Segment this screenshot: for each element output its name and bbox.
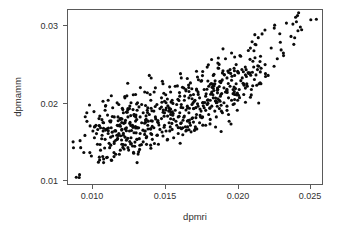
data-point (123, 121, 126, 124)
data-point (214, 126, 217, 129)
data-point (95, 132, 98, 135)
data-point (207, 63, 210, 66)
data-point (238, 96, 241, 99)
data-point (139, 132, 142, 135)
data-point (143, 122, 146, 125)
data-point (109, 136, 112, 139)
data-point (158, 128, 161, 131)
data-point (104, 109, 107, 112)
data-point (178, 91, 181, 94)
data-point (236, 99, 239, 102)
data-point (244, 101, 247, 104)
data-point (212, 73, 215, 76)
data-point (201, 70, 204, 73)
data-point (258, 60, 261, 63)
data-point (207, 113, 210, 116)
data-point (225, 88, 228, 91)
data-point (247, 72, 250, 75)
data-point (185, 129, 188, 132)
data-point (195, 113, 198, 116)
data-point (244, 73, 247, 76)
data-point (217, 67, 220, 70)
data-point (229, 122, 232, 125)
data-point (248, 58, 251, 61)
data-point (198, 96, 201, 99)
data-point (110, 159, 113, 162)
data-point (116, 115, 119, 118)
data-point (122, 111, 125, 114)
data-point (200, 79, 203, 82)
data-point (149, 147, 152, 150)
data-point (104, 105, 107, 108)
data-point (179, 142, 182, 145)
data-point (273, 65, 276, 68)
data-point (181, 133, 184, 136)
data-point (109, 144, 112, 147)
data-point (215, 115, 218, 118)
data-point (219, 95, 222, 98)
data-point (103, 146, 106, 149)
data-point (270, 46, 273, 49)
data-point (205, 88, 208, 91)
data-point (242, 93, 245, 96)
data-point (227, 113, 230, 116)
data-point (132, 152, 135, 155)
data-point (169, 111, 172, 114)
data-point (192, 93, 195, 96)
data-point (129, 114, 132, 117)
data-point (100, 137, 103, 140)
data-point (156, 134, 159, 137)
data-point (134, 126, 137, 129)
data-point (148, 74, 151, 77)
data-point (187, 111, 190, 114)
data-point (161, 130, 164, 133)
data-point (293, 36, 296, 39)
data-point (113, 142, 116, 145)
data-point (260, 67, 263, 70)
data-point (154, 105, 157, 108)
data-point (123, 147, 126, 150)
data-point (280, 48, 283, 51)
data-point (97, 161, 100, 164)
data-point (82, 151, 85, 154)
data-point (125, 94, 128, 97)
data-point (153, 90, 156, 93)
data-point (251, 84, 254, 87)
data-point (203, 88, 206, 91)
plot-canvas: 0.010 0.015 0.020 0.025 0.01 0.02 0.03 d… (0, 0, 342, 232)
data-point (285, 22, 288, 25)
data-point (107, 127, 110, 130)
data-point (169, 125, 172, 128)
data-point (101, 155, 104, 158)
data-point (213, 110, 216, 113)
x-tick-label: 0.010 (81, 191, 104, 201)
data-point (149, 93, 152, 96)
data-point (296, 29, 299, 32)
data-point (178, 115, 181, 118)
data-point (150, 133, 153, 136)
data-point (139, 115, 142, 118)
data-point (163, 100, 166, 103)
data-point (78, 173, 81, 176)
data-point (150, 119, 153, 122)
data-point (96, 128, 99, 131)
data-point (84, 115, 87, 118)
data-point (186, 77, 189, 80)
data-point (119, 134, 122, 137)
data-point (98, 124, 101, 127)
data-point (299, 25, 302, 28)
data-point (91, 129, 94, 132)
y-tick-label: 0.02 (40, 99, 58, 109)
data-point (191, 97, 194, 100)
data-point (198, 121, 201, 124)
data-point (128, 104, 131, 107)
data-point (227, 96, 230, 99)
data-point (235, 82, 238, 85)
data-point (200, 116, 203, 119)
data-point (182, 116, 185, 119)
data-point (247, 49, 250, 52)
data-point (263, 29, 266, 32)
data-point (218, 107, 221, 110)
data-point (101, 121, 104, 124)
data-point (99, 149, 102, 152)
